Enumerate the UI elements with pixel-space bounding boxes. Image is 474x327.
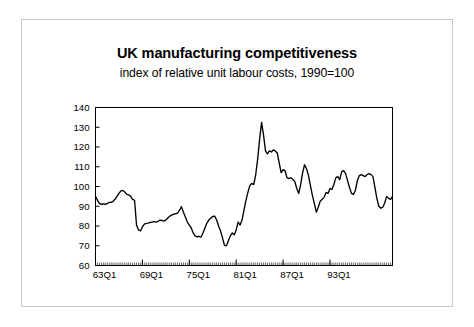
series-line-rulc	[96, 122, 393, 245]
x-tick-label: 69Q1	[140, 269, 163, 280]
y-tick-label: 70	[79, 240, 90, 251]
y-tick-label: 130	[73, 122, 89, 133]
axis-lines	[96, 108, 393, 266]
y-tick-label: 60	[79, 260, 90, 271]
y-tick-label: 120	[73, 141, 89, 152]
y-tick-label: 110	[74, 161, 89, 172]
line-chart-svg: 60708090100110120130140 63Q169Q175Q181Q1…	[0, 0, 474, 327]
y-tick-label: 140	[73, 102, 89, 113]
data-series-line	[96, 122, 393, 245]
figure-canvas: UK manufacturing competitiveness index o…	[0, 0, 474, 327]
y-tick-label: 80	[79, 220, 90, 231]
x-tick-label: 87Q1	[280, 269, 303, 280]
y-tick-label: 90	[79, 201, 90, 212]
plot-frame	[96, 108, 393, 266]
x-tick-label: 63Q1	[93, 269, 116, 280]
y-tick-label: 100	[73, 181, 89, 192]
x-tick-label: 75Q1	[187, 269, 210, 280]
x-axis-ticks: 63Q169Q175Q181Q187Q193Q1	[93, 260, 393, 280]
plot-area: 60708090100110120130140 63Q169Q175Q181Q1…	[0, 0, 474, 327]
x-tick-label: 81Q1	[233, 269, 256, 280]
x-tick-label: 93Q1	[327, 269, 350, 280]
